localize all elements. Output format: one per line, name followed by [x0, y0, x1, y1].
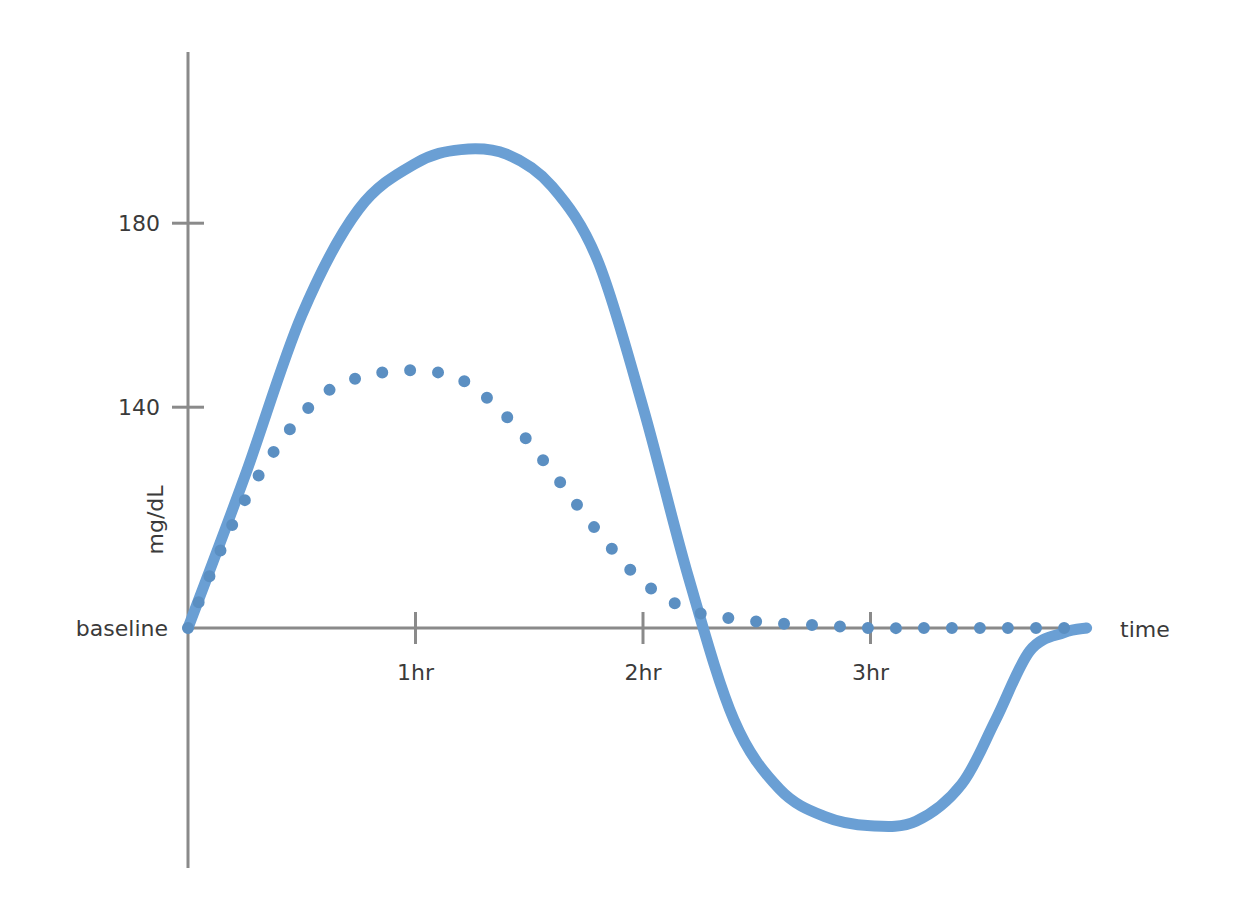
y-tick-label: 180	[118, 211, 160, 236]
x-axis-title: time	[1120, 617, 1170, 642]
blood-glucose-chart: 180140baseline1hr2hr3hrtimemg/dL	[0, 0, 1242, 911]
y-tick-label: baseline	[76, 616, 168, 641]
x-tick-label: 2hr	[625, 660, 663, 685]
x-tick-label: 1hr	[397, 660, 435, 685]
dotted-glucose-curve	[188, 370, 1087, 628]
labels-layer: 180140baseline1hr2hr3hrtimemg/dL	[76, 211, 1170, 685]
x-tick-label: 3hr	[852, 660, 890, 685]
series-layer	[188, 149, 1087, 827]
solid-glucose-curve	[188, 149, 1087, 827]
y-axis-title: mg/dL	[143, 485, 168, 555]
y-tick-label: 140	[118, 395, 160, 420]
axes	[172, 52, 1083, 868]
